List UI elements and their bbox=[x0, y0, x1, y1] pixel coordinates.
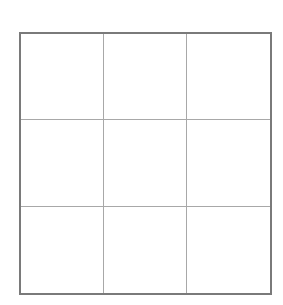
grid-3x3 bbox=[19, 32, 272, 295]
canvas bbox=[0, 0, 283, 305]
grid-cell-r3-c1[interactable] bbox=[21, 207, 104, 293]
grid-cell-r1-c3[interactable] bbox=[187, 34, 270, 120]
grid-cell-r2-c2[interactable] bbox=[104, 120, 187, 207]
grid-cell-r1-c1[interactable] bbox=[21, 34, 104, 120]
grid-cell-r2-c1[interactable] bbox=[21, 120, 104, 207]
grid-cell-r3-c3[interactable] bbox=[187, 207, 270, 293]
grid-cell-r2-c3[interactable] bbox=[187, 120, 270, 207]
grid-cell-r3-c2[interactable] bbox=[104, 207, 187, 293]
grid-cell-r1-c2[interactable] bbox=[104, 34, 187, 120]
